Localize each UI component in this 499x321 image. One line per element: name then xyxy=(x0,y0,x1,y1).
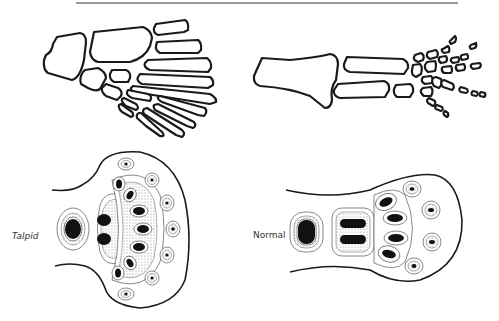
talpid-skeleton xyxy=(44,20,216,137)
normal-skeleton xyxy=(254,36,485,117)
normal-bud xyxy=(286,175,462,282)
talpid-label: Talpid xyxy=(12,231,39,241)
normal-label: Normal xyxy=(253,230,286,240)
talpid-bud xyxy=(52,152,189,308)
figure-canvas xyxy=(0,0,499,321)
